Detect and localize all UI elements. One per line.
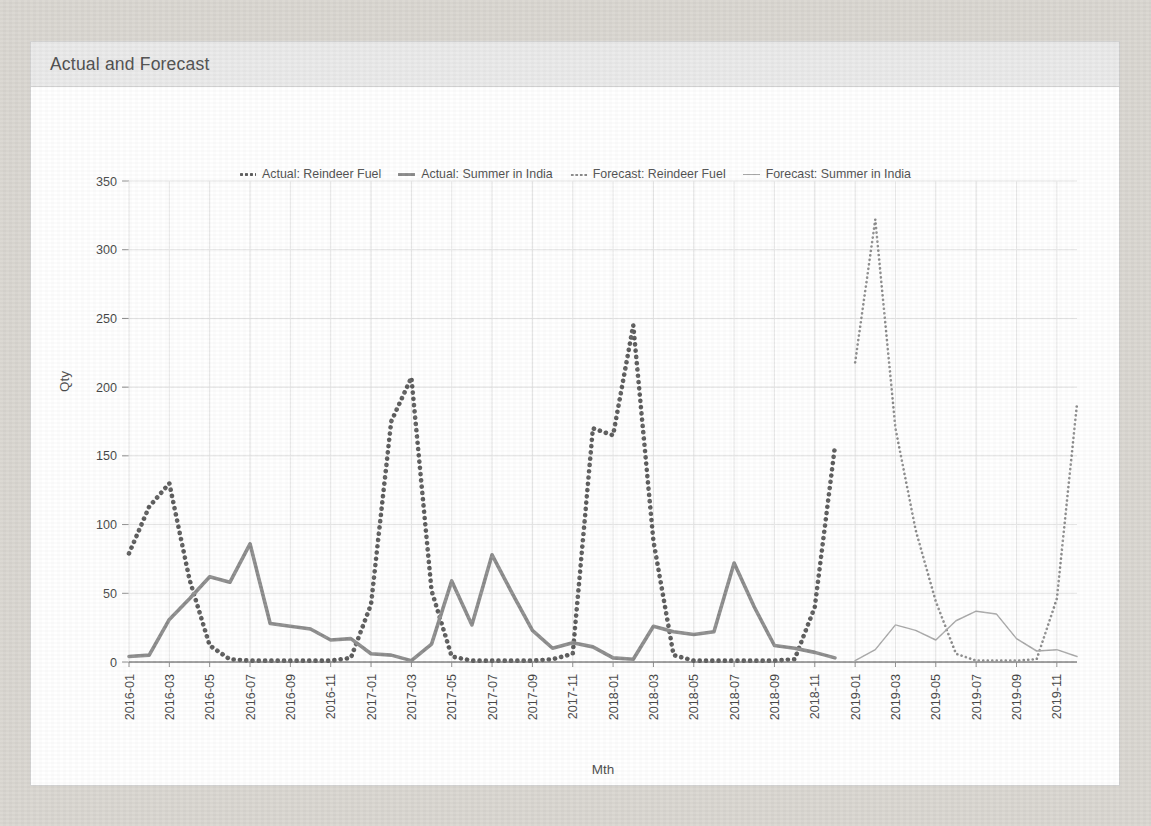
x-axis-tick-label: 2016-03 [163,674,177,720]
x-axis-tick-label: 2018-05 [687,674,701,720]
x-axis-tick-label: 2016-11 [324,674,338,719]
x-axis-tick-label: 2017-11 [566,674,580,719]
card-header: Actual and Forecast [31,42,1119,87]
x-axis-tick-label: 2017-09 [526,674,540,720]
x-axis-tick-label: 2018-01 [607,674,621,720]
chart-plot-area: 0501001502002503003502016-012016-032016-… [31,87,1121,785]
series-line-1 [129,544,835,661]
x-axis-tick-label: 2019-09 [1010,674,1024,720]
y-axis-title: Qty [57,371,72,392]
x-axis-tick-label: 2019-01 [849,674,863,720]
x-axis-tick-label: 2019-05 [929,674,943,720]
x-axis-tick-label: 2016-09 [284,674,298,720]
x-axis-tick-label: 2016-07 [244,674,258,720]
y-axis-tick-label: 300 [96,243,117,257]
screenshot-page: Actual and Forecast Actual: Reindeer Fue… [0,0,1151,826]
series-line-3 [855,611,1077,660]
x-axis-tick-label: 2018-07 [728,674,742,720]
chart-svg: 0501001502002503003502016-012016-032016-… [31,87,1121,785]
x-axis-tick-label: 2016-01 [123,674,137,720]
x-axis-tick-label: 2018-03 [647,674,661,720]
page-title: Actual and Forecast [50,54,209,75]
x-axis-tick-label: 2016-05 [203,674,217,720]
y-axis-tick-label: 150 [96,449,117,463]
x-axis-tick-label: 2019-11 [1050,674,1064,719]
y-axis-tick-label: 350 [96,175,117,189]
series-line-2 [855,219,1077,660]
series-line-0 [129,325,835,660]
card-body: Actual: Reindeer Fuel Actual: Summer in … [31,87,1119,785]
x-axis-tick-label: 2017-01 [365,674,379,720]
y-axis-tick-label: 50 [103,587,117,601]
y-axis-tick-label: 100 [96,518,117,532]
x-axis-title: Mth [592,762,615,777]
chart-card: Actual and Forecast Actual: Reindeer Fue… [30,41,1120,786]
y-axis-tick-label: 200 [96,381,117,395]
y-axis-tick-label: 0 [110,656,117,670]
x-axis-tick-label: 2019-03 [889,674,903,720]
x-axis-tick-label: 2018-11 [808,674,822,719]
x-axis-tick-label: 2017-07 [486,674,500,720]
y-axis-tick-label: 250 [96,312,117,326]
x-axis-tick-label: 2017-03 [405,674,419,720]
x-axis-tick-label: 2017-05 [445,674,459,720]
x-axis-tick-label: 2018-09 [768,674,782,720]
x-axis-tick-label: 2019-07 [970,674,984,720]
